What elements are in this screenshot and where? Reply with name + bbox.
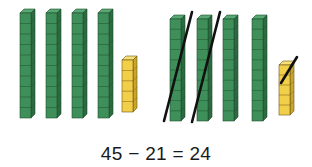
tens-rod [98,9,113,118]
ones-column [122,56,137,112]
ones-column [279,61,294,115]
tens-rod [72,9,87,118]
tens-rod [252,15,267,121]
tens-rod [223,15,238,121]
base-ten-blocks-diagram [0,0,312,140]
subtraction-equation: 45 − 21 = 24 [0,143,312,165]
tens-rod [46,9,61,118]
tens-rod [20,9,35,118]
